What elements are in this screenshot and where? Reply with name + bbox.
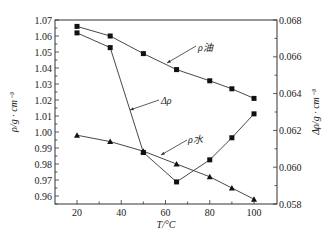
square-marker (229, 135, 234, 140)
series-layer (74, 24, 257, 202)
y-left-tick-label: 1.07 (35, 15, 53, 26)
y-left-tick-label: 0.98 (35, 159, 53, 170)
x-axis-label: T/°C (156, 219, 175, 230)
rho-oil-leader (167, 46, 196, 63)
square-marker (75, 24, 80, 29)
labels-layer: ρ油Δρρ水 (130, 42, 214, 155)
y-left-tick-label: 1.04 (35, 63, 53, 74)
y-right-tick-label: 0.060 (279, 162, 302, 173)
plot-frame (55, 20, 277, 204)
rho-oil-label: ρ油 (197, 42, 214, 53)
square-marker (174, 67, 179, 72)
y-left-tick-label: 1.01 (35, 111, 53, 122)
square-marker (207, 78, 212, 83)
y-left-tick-label: 1.02 (35, 95, 53, 106)
y-right-tick-label: 0.068 (279, 15, 302, 26)
y-left-axis-label: ρ/g · cm⁻³ (8, 91, 19, 133)
x-tick-label: 40 (116, 207, 126, 218)
x-tick-label: 80 (205, 207, 215, 218)
delta-rho-leader (130, 100, 159, 110)
y-left-tick-label: 1.00 (35, 127, 53, 138)
square-marker (141, 150, 146, 155)
chart: 20406080100T/°C1.071.061.051.041.031.021… (0, 0, 328, 236)
axes: 20406080100T/°C1.071.061.051.041.031.021… (8, 15, 321, 231)
x-tick-label: 60 (161, 207, 171, 218)
y-right-tick-label: 0.062 (279, 125, 302, 136)
rho-water-leader (161, 140, 187, 155)
square-marker (207, 157, 212, 162)
y-left-tick-label: 1.03 (35, 79, 53, 90)
series-line (77, 135, 254, 199)
y-left-tick-label: 0.99 (35, 143, 53, 154)
square-marker (252, 111, 257, 116)
square-marker (229, 86, 234, 91)
rho-water-label: ρ水 (187, 134, 204, 145)
square-marker (141, 51, 146, 56)
y-left-tick-label: 1.06 (35, 31, 53, 42)
square-marker (108, 34, 113, 39)
square-marker (75, 30, 80, 35)
x-tick-label: 100 (247, 207, 262, 218)
y-right-axis-label: Δρ/g · cm⁻³ (310, 88, 321, 136)
delta-rho-label: Δρ (160, 95, 172, 106)
y-right-tick-label: 0.064 (279, 88, 302, 99)
series-line (77, 26, 254, 98)
triangle-marker (207, 174, 213, 180)
triangle-marker (74, 132, 80, 138)
triangle-marker (174, 161, 180, 167)
square-marker (174, 179, 179, 184)
square-marker (252, 96, 257, 101)
delta-rho-arrowhead (130, 107, 134, 110)
square-marker (108, 45, 113, 50)
y-right-tick-label: 0.066 (279, 51, 302, 62)
y-left-tick-label: 0.97 (35, 175, 53, 186)
x-tick-label: 20 (72, 207, 82, 218)
triangle-marker (229, 185, 235, 191)
y-left-tick-label: 0.96 (35, 191, 53, 202)
triangle-marker (251, 196, 257, 202)
y-right-tick-label: 0.058 (279, 199, 302, 210)
y-left-tick-label: 1.05 (35, 47, 53, 58)
